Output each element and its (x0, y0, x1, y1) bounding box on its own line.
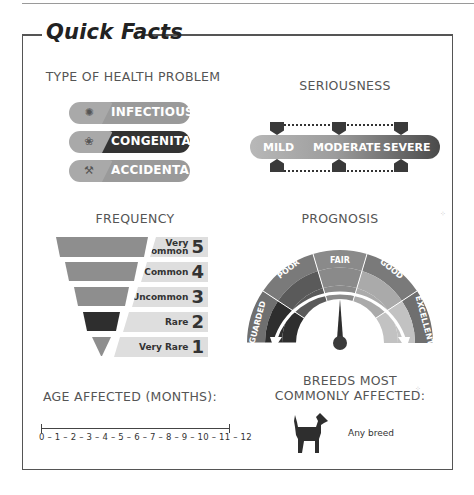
frequency-level-1: Very Rare 1 (114, 337, 208, 357)
breed-text: Any breed (348, 428, 394, 438)
dog-icon (292, 413, 328, 455)
frequency-funnel (0, 0, 474, 495)
prognosis-heading: PROGNOSIS (245, 211, 435, 226)
frequency-level-2: Rare 2 (123, 312, 208, 332)
prognosis-gauge: GUARDED POOR FAIR GOOD EXCELLENT (247, 249, 433, 355)
frequency-level-3: Uncommon 3 (132, 287, 208, 307)
age-scale-labels: 0 – 1 – 2 – 3 – 4 – 5 – 6 – 7 – 8 – 9 – … (39, 432, 252, 442)
age-scale-line (41, 428, 230, 429)
frequency-level-4: Common 4 (141, 262, 208, 282)
svg-text:FAIR: FAIR (330, 256, 350, 265)
frequency-level-5: VeryCommon 5 (150, 237, 208, 257)
age-heading: AGE AFFECTED (MONTHS): (30, 389, 230, 404)
